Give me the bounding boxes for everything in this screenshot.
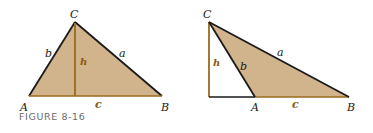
right-vertex-a-label: A: [250, 101, 259, 114]
left-triangle-figure: C A B b a c h: [19, 8, 169, 114]
figure-caption: FIGURE 8-16: [19, 111, 85, 122]
right-altitude-h-label: h: [213, 57, 220, 68]
left-altitude-h-label: h: [80, 56, 87, 67]
right-vertex-b-label: B: [346, 101, 355, 114]
right-side-a-label: a: [277, 46, 284, 59]
left-side-b-label: b: [45, 47, 52, 60]
right-side-b-label: b: [240, 60, 247, 73]
right-side-c-label: c: [292, 98, 299, 111]
left-vertex-c-label: C: [70, 8, 79, 21]
left-side-c-label: c: [95, 98, 102, 111]
left-side-a-label: a: [119, 47, 126, 60]
left-vertex-b-label: B: [160, 101, 169, 114]
right-vertex-c-label: C: [203, 8, 212, 21]
right-triangle-figure: C A B b a c h: [203, 8, 355, 114]
